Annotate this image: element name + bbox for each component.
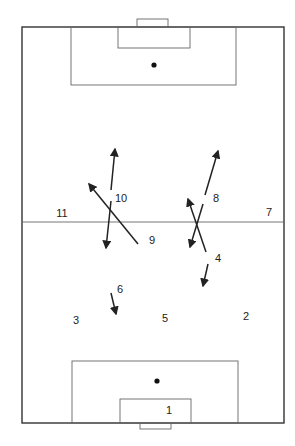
player-number-1: 1 [166, 404, 172, 416]
player-runs [89, 149, 218, 314]
player-number-9: 9 [149, 234, 155, 246]
run-arrow-player-9-diagonal-forward-left [89, 184, 138, 244]
pitch-boundary [22, 27, 284, 423]
run-arrow-player-6-back [111, 293, 116, 314]
player-number-6: 6 [117, 283, 123, 295]
player-number-11: 11 [56, 207, 67, 219]
top-goal [137, 19, 168, 27]
top-penalty-spot [151, 62, 156, 67]
soccer-pitch-diagram: 1234567891011 [0, 0, 295, 446]
bottom-penalty-area [72, 361, 238, 423]
player-number-8: 8 [213, 192, 219, 204]
run-arrow-player-4-back [203, 264, 208, 286]
player-number-4: 4 [215, 252, 221, 264]
run-arrow-player-8-forward [205, 151, 218, 195]
top-penalty-area [71, 27, 236, 85]
player-numbers: 1234567891011 [56, 192, 272, 416]
player-number-7: 7 [266, 206, 272, 218]
player-number-10: 10 [115, 192, 127, 204]
player-number-5: 5 [162, 312, 168, 324]
bottom-goal [140, 423, 171, 429]
top-goal-area [118, 27, 190, 48]
bottom-penalty-spot [154, 378, 159, 383]
player-number-2: 2 [243, 310, 249, 322]
run-arrow-player-10-forward [111, 149, 115, 190]
bottom-goal-area [120, 399, 191, 423]
player-number-3: 3 [73, 314, 79, 326]
pitch-lines [22, 19, 284, 429]
